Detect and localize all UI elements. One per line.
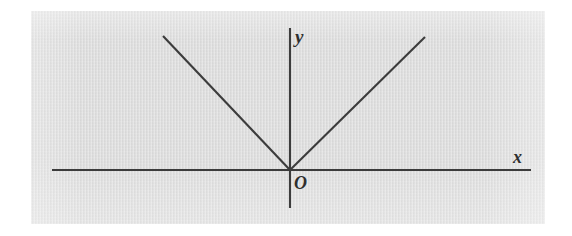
y-axis-label: y (295, 27, 303, 46)
origin-label: O (294, 174, 307, 192)
x-axis-label: x (513, 148, 522, 166)
coordinate-diagram (0, 0, 572, 236)
figure-root: y x O (0, 0, 572, 236)
graph-right-arm (290, 37, 425, 170)
graph-left-arm (163, 36, 290, 170)
